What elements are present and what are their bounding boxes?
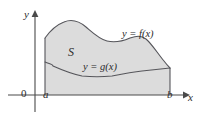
y-axis-label: y: [24, 9, 29, 20]
upper-bound-label-b: b: [167, 89, 173, 100]
origin-label: 0: [21, 88, 27, 99]
area-between-curves-figure: y x 0 a b S y = f(x) y = g(x): [0, 0, 204, 120]
region-label-s: S: [68, 46, 74, 58]
curve-label-g-of-x: y = g(x): [83, 62, 117, 73]
curve-label-f-of-x: y = f(x): [122, 29, 154, 40]
figure-canvas: [0, 0, 204, 120]
y-axis-arrowhead-icon: [32, 10, 39, 17]
lower-bound-label-a: a: [43, 89, 49, 100]
x-axis-label: x: [188, 92, 193, 103]
